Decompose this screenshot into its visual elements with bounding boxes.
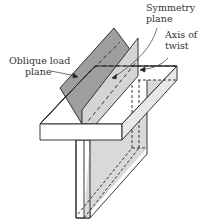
axis-of-twist-label: Axis of twist [165, 30, 197, 51]
oblique-load-plane-label: Oblique load plane [9, 56, 70, 77]
beam-diagram: Symmetry plane Axis of twist Oblique loa… [0, 0, 203, 224]
symmetry-plane-label: Symmetry plane [146, 3, 195, 24]
